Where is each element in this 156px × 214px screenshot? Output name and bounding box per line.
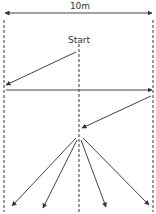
fan-far-left-arrow	[12, 138, 76, 206]
diagonal-to-center-arrow	[82, 96, 151, 128]
fan-right-arrow	[81, 140, 106, 207]
fan-left-arrow	[43, 140, 77, 208]
start-label: Start	[68, 36, 90, 45]
drill-diagram	[0, 0, 156, 214]
width-label: 10m	[70, 2, 90, 11]
diagonal-to-left-arrow	[6, 52, 76, 85]
